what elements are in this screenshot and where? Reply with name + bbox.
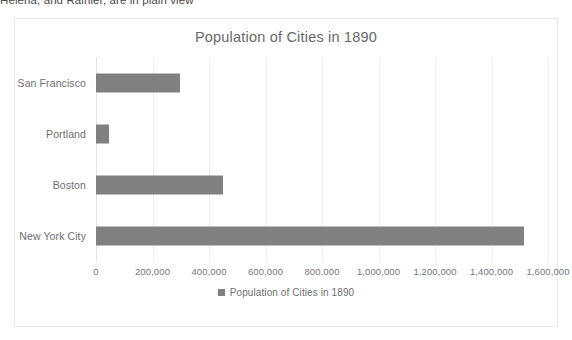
tick-label: 600,000 [248, 266, 283, 277]
category-label: New York City [19, 211, 86, 262]
chart-legend: Population of Cities in 1890 [15, 287, 557, 298]
category-axis: San FranciscoPortlandBostonNew York City [15, 57, 91, 262]
tick-label: 1,600,000 [526, 266, 569, 277]
bar [96, 73, 180, 92]
value-axis: 0200,000400,000600,000800,0001,000,0001,… [96, 266, 548, 282]
category-label: Portland [46, 108, 86, 159]
bar-row [96, 108, 548, 159]
tick-label: 1,000,000 [357, 266, 400, 277]
bar-row [96, 160, 548, 211]
bar [96, 124, 109, 143]
tick-label: 800,000 [304, 266, 339, 277]
bar [96, 176, 223, 195]
plot-area [96, 57, 548, 262]
legend-label: Population of Cities in 1890 [230, 287, 355, 298]
bar [96, 227, 524, 246]
category-label: San Francisco [18, 57, 86, 108]
bar-row [96, 211, 548, 262]
category-label: Boston [53, 160, 86, 211]
bar-series [96, 57, 548, 262]
tick-label: 0 [93, 266, 98, 277]
tick-label: 200,000 [135, 266, 170, 277]
chart-container: Population of Cities in 1890 San Francis… [14, 18, 558, 327]
chart-title: Population of Cities in 1890 [15, 29, 557, 45]
tick-label: 400,000 [191, 266, 226, 277]
legend-swatch-icon [218, 289, 225, 296]
page-body-text: Helena, and Rainier, are in plain view [0, 0, 400, 8]
tick-label: 1,400,000 [470, 266, 513, 277]
bar-row [96, 57, 548, 108]
gridline [548, 57, 549, 262]
tick-label: 1,200,000 [413, 266, 456, 277]
